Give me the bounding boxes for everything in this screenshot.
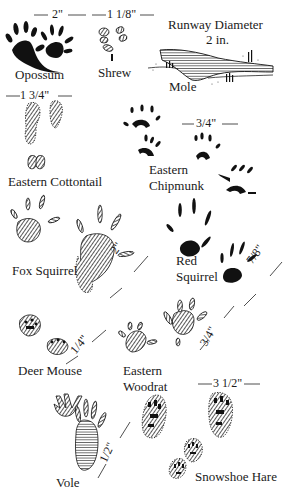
- woodrat-label-line1: Eastern: [123, 364, 162, 378]
- snowshoe-hare-measurement-label: 3 1/2": [213, 377, 242, 389]
- snowshoe-hare-label: Snowshoe Hare: [195, 470, 277, 484]
- cottontail-label: Eastern Cottontail: [8, 175, 102, 189]
- chipmunk-label-line1: Eastern: [149, 163, 188, 177]
- vole-label: Vole: [56, 476, 80, 490]
- shrew-track-icon: [96, 24, 136, 64]
- red-squirrel-label-line1: Red: [176, 254, 197, 268]
- fox-squirrel-label: Fox Squirrel: [12, 264, 77, 278]
- shrew-label: Shrew: [98, 66, 131, 80]
- chipmunk-label-line2: Chipmunk: [149, 179, 204, 193]
- mole-measurement-label: Runway Diameter: [168, 18, 263, 32]
- mole-label: Mole: [169, 80, 196, 94]
- shrew-measurement-label: 1 1/8": [107, 8, 136, 20]
- chipmunk-measurement-label: 3/4": [196, 117, 216, 129]
- deer-mouse-label: Deer Mouse: [18, 364, 82, 378]
- opossum-measurement-label: 2": [52, 8, 63, 20]
- opossum-label: Opossum: [15, 68, 64, 82]
- red-squirrel-label-line2: Squirrel: [176, 270, 218, 284]
